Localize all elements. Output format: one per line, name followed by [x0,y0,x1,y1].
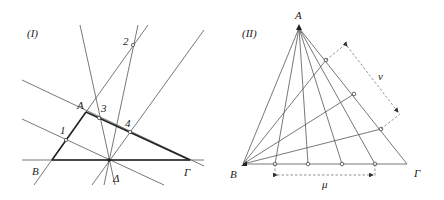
diagram-canvas: (I) A B Γ Δ 1 2 3 4 [0,0,444,200]
point-2-label: 2 [123,35,129,47]
point-3 [97,116,100,119]
figure-2: ν μ (II) A B Γ [230,9,421,190]
cevian-a-2 [299,28,308,164]
point-1 [64,138,67,141]
nu-ext-top [326,44,346,60]
vertex-a-label: A [294,9,302,21]
point-1-label: 1 [60,124,66,136]
nu-label: ν [378,70,383,82]
cevian-b-3 [243,129,381,164]
point-bg-2 [306,162,310,166]
point-3-label: 3 [100,102,107,114]
line-ba2 [34,25,148,185]
side-ab [243,28,299,164]
cevian-a-1 [275,28,299,164]
cevian-b-2 [243,94,354,164]
nu-ext-bottom [381,114,400,129]
point-4-label: 4 [125,117,131,129]
point-bg-3 [340,162,344,166]
point-2 [131,43,134,46]
side-ag [86,112,190,160]
vertex-a-label: A [76,99,84,111]
vertex-g-label: Γ [413,167,421,179]
vertex-g-label: Γ [183,166,191,178]
cevian-a-3 [299,28,342,164]
side-ba [52,112,86,160]
figure-1: (I) A B Γ Δ 1 2 3 4 [22,25,204,185]
nu-dimension-arrow [347,46,398,112]
point-ag-2 [352,92,356,96]
figure-2-label: (II) [242,27,257,40]
point-4 [128,130,131,133]
line-1d [22,119,164,185]
vertex-d-label: Δ [112,172,119,184]
cevian-a-4 [299,28,375,164]
vertex-a-marker [296,24,302,30]
side-ag [299,28,407,164]
cevian-b-1 [243,60,326,164]
vertex-b-label: B [32,165,39,177]
figure-1-label: (I) [27,27,38,40]
mu-label: μ [321,178,328,190]
vertex-b-label: B [230,168,237,180]
point-delta [107,158,111,162]
